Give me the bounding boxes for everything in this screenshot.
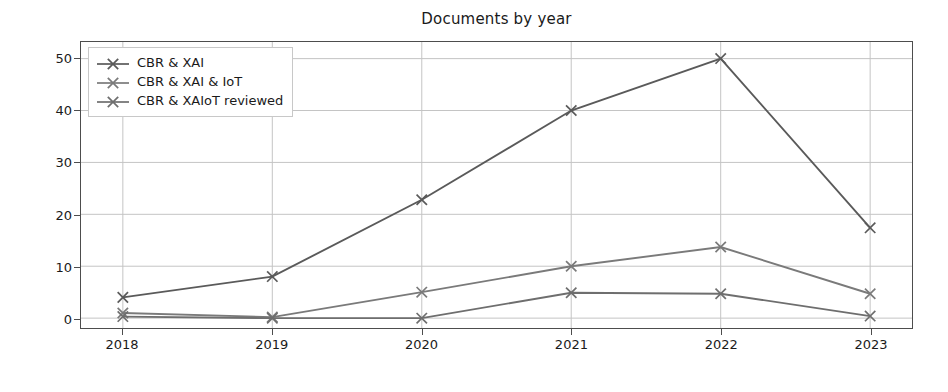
legend-label: CBR & XAI xyxy=(137,56,204,70)
x-tick-label: 2018 xyxy=(105,337,138,352)
y-axis-tick-labels: 01020304050 xyxy=(38,41,72,329)
chart-legend: CBR & XAICBR & XAI & IoTCBR & XAIoT revi… xyxy=(88,47,293,117)
legend-label: CBR & XAI & IoT xyxy=(137,75,242,89)
x-tick-mark xyxy=(871,329,872,335)
x-tick-mark xyxy=(272,329,273,335)
x-tick-mark xyxy=(721,329,722,335)
legend-line-marker-icon xyxy=(96,56,130,70)
y-tick-label: 40 xyxy=(55,102,72,117)
x-tick-label: 2021 xyxy=(555,337,588,352)
chart-figure: Documents by year documents 01020304050 … xyxy=(0,0,948,392)
y-tick-label: 10 xyxy=(55,259,72,274)
legend-item[interactable]: CBR & XAI xyxy=(96,53,283,72)
legend-line-marker-icon xyxy=(96,94,130,108)
x-tick-label: 2022 xyxy=(705,337,738,352)
x-tick-label: 2023 xyxy=(855,337,888,352)
x-tick-mark xyxy=(571,329,572,335)
x-tick-label: 2019 xyxy=(255,337,288,352)
y-tick-label: 0 xyxy=(64,312,72,327)
legend-line-marker-icon xyxy=(96,75,130,89)
x-tick-label: 2020 xyxy=(405,337,438,352)
x-axis-tick-labels: 201820192020202120222023 xyxy=(80,337,913,361)
series-line xyxy=(123,293,870,318)
legend-item[interactable]: CBR & XAIoT reviewed xyxy=(96,91,283,110)
y-tick-label: 30 xyxy=(55,155,72,170)
chart-title: Documents by year xyxy=(80,10,913,28)
legend-item[interactable]: CBR & XAI & IoT xyxy=(96,72,283,91)
x-tick-mark xyxy=(122,329,123,335)
x-tick-mark xyxy=(422,329,423,335)
data-series xyxy=(118,288,876,324)
y-tick-label: 50 xyxy=(55,50,72,65)
legend-label: CBR & XAIoT reviewed xyxy=(137,94,283,108)
y-tick-label: 20 xyxy=(55,207,72,222)
